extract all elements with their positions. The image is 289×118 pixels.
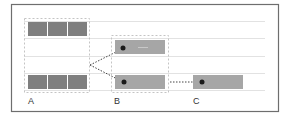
group-a-bar [68, 75, 87, 89]
group-a-bar [68, 22, 87, 36]
group-b-dot-top [121, 46, 126, 51]
group-a-bar [48, 22, 67, 36]
group-a-bar [28, 75, 47, 89]
group-a-bar [48, 75, 67, 89]
group-c [193, 75, 243, 89]
diagram-canvas: A B C [0, 0, 289, 118]
label-b: B [114, 96, 120, 106]
group-b-dot-bottom [122, 80, 127, 85]
outer-frame [12, 5, 279, 112]
group-a-bar [28, 22, 47, 36]
group-c-dot [200, 80, 205, 85]
label-c: C [193, 96, 200, 106]
label-a: A [28, 96, 34, 106]
